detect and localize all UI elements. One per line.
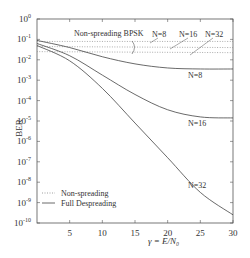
x-tick-label: 25 bbox=[196, 228, 206, 238]
x-tick-label: 15 bbox=[131, 228, 141, 238]
y-tick-label: 10-9 bbox=[17, 197, 31, 208]
pointer-n32 bbox=[190, 38, 213, 55]
y-axis-label: BER bbox=[14, 119, 24, 137]
y-tick-label: 10-10 bbox=[14, 217, 31, 228]
dotted-label-n16: N=16 bbox=[179, 30, 197, 39]
y-tick-label: 10-1 bbox=[17, 33, 31, 44]
dotted-label-n8: N=8 bbox=[152, 30, 166, 39]
x-axis-label: γ = E/N₀ bbox=[148, 236, 179, 246]
legend-label-nonspreading: Non-spreading bbox=[61, 189, 109, 198]
x-tick-label: 30 bbox=[229, 228, 239, 238]
y-tick-label: 10-4 bbox=[17, 95, 31, 106]
ber-chart: 10010-110-210-310-410-510-610-710-810-91… bbox=[0, 0, 250, 258]
y-tick-label: 10-3 bbox=[17, 74, 31, 85]
series-line bbox=[37, 52, 233, 53]
dotted-label-n32: N=32 bbox=[205, 30, 223, 39]
group-label: Non-spreading BPSK bbox=[74, 29, 144, 38]
solid-label-n8: N=8 bbox=[188, 71, 202, 80]
solid-label-n32: N=32 bbox=[188, 181, 206, 190]
y-tick-label: 10-8 bbox=[17, 176, 31, 187]
y-tick-label: 10-2 bbox=[17, 54, 31, 65]
x-tick-label: 10 bbox=[98, 228, 108, 238]
solid-label-n16: N=16 bbox=[188, 119, 206, 128]
y-tick-label: 100 bbox=[19, 13, 31, 24]
series-line bbox=[37, 43, 233, 117]
x-tick-label: 5 bbox=[67, 228, 72, 238]
y-tick-label: 10-7 bbox=[17, 156, 31, 167]
legend-label-full-despreading: Full Despreading bbox=[61, 199, 116, 208]
